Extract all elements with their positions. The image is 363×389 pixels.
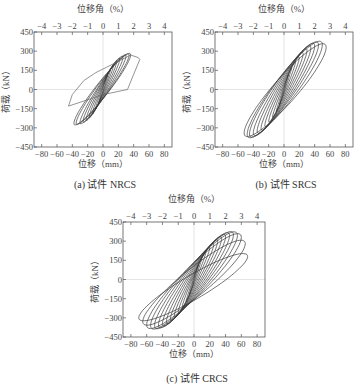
top-x-tick-label: 0	[192, 211, 196, 221]
x-tick-label: −20	[172, 339, 185, 349]
y-tick-label: −300	[104, 313, 122, 323]
y-tick-label: −300	[15, 123, 33, 133]
x-tick-label: −20	[262, 149, 275, 159]
top-axis-title: 位移角（%）	[168, 193, 221, 204]
x-tick-label: 80	[341, 149, 350, 159]
top-x-tick-label: 3	[328, 21, 332, 31]
top-x-tick-label: −2	[68, 21, 77, 31]
top-axis-title: 位移角（%）	[77, 3, 130, 14]
y-tick-label: 150	[201, 65, 214, 75]
top-x-tick-label: 1	[208, 211, 212, 221]
caption-b: (b) 试件 SRCS	[221, 176, 351, 191]
y-tick-label: −300	[196, 123, 214, 133]
y-tick-label: −150	[104, 294, 122, 304]
x-tick-label: 20	[114, 149, 123, 159]
top-x-tick-label: 2	[223, 211, 227, 221]
x-tick-label: 60	[145, 149, 154, 159]
top-x-tick-label: −1	[264, 21, 273, 31]
x-tick-label: −40	[156, 339, 169, 349]
top-x-tick-label: −3	[142, 211, 151, 221]
y-tick-label: −450	[104, 332, 122, 342]
top-x-tick-label: 3	[147, 21, 151, 31]
x-tick-label: 60	[237, 339, 246, 349]
y-tick-label: 450	[20, 27, 33, 37]
y-tick-label: 150	[20, 65, 33, 75]
top-x-tick-label: −4	[126, 211, 136, 221]
top-axis-title: 位移角（%）	[258, 3, 311, 14]
hysteresis-plot-c: −80−60−40−20020406080−4−3−2−101234−450−3…	[89, 190, 274, 368]
y-tick-label: 0	[210, 85, 214, 95]
x-tick-label: −40	[66, 149, 79, 159]
y-tick-label: −150	[15, 104, 33, 114]
x-tick-label: −80	[124, 339, 137, 349]
hysteresis-plot-a: −80−60−40−20020406080−4−3−2−101234−450−3…	[0, 0, 182, 175]
top-x-tick-label: 2	[313, 21, 317, 31]
top-x-tick-label: 4	[255, 211, 260, 221]
top-x-tick-label: −3	[52, 21, 61, 31]
x-tick-label: 40	[310, 149, 319, 159]
x-tick-label: 0	[101, 149, 105, 159]
x-tick-label: 80	[253, 339, 262, 349]
x-tick-label: 40	[221, 339, 230, 349]
top-x-tick-label: 2	[132, 21, 136, 31]
y-tick-label: −450	[15, 142, 33, 152]
x-axis-title: 位移（mm）	[259, 158, 309, 169]
caption-c: (c) 试件 CRCS	[132, 370, 262, 385]
top-x-tick-label: 3	[239, 211, 243, 221]
y-tick-label: 450	[109, 217, 122, 227]
y-tick-label: 300	[109, 236, 122, 246]
x-tick-label: 0	[192, 339, 196, 349]
top-x-tick-label: 4	[343, 21, 348, 31]
x-tick-label: −40	[247, 149, 260, 159]
top-x-tick-label: 0	[282, 21, 286, 31]
y-tick-label: 300	[201, 46, 214, 56]
top-x-tick-label: −4	[37, 21, 47, 31]
x-tick-label: −60	[50, 149, 63, 159]
y-tick-label: 0	[118, 275, 122, 285]
y-tick-label: 0	[29, 85, 33, 95]
x-tick-label: 20	[295, 149, 304, 159]
y-axis-title: 荷载（kN）	[0, 66, 11, 113]
x-tick-label: −80	[216, 149, 229, 159]
x-tick-label: 80	[160, 149, 169, 159]
top-x-tick-label: −4	[218, 21, 228, 31]
top-x-tick-label: −1	[174, 211, 183, 221]
x-tick-label: −60	[140, 339, 153, 349]
hysteresis-curves	[139, 232, 248, 330]
y-axis-title: 荷载（kN）	[181, 66, 192, 113]
x-tick-label: −20	[81, 149, 94, 159]
chart-panel-a: −80−60−40−20020406080−4−3−2−101234−450−3…	[0, 0, 182, 195]
chart-panel-c: −80−60−40−20020406080−4−3−2−101234−450−3…	[89, 190, 274, 389]
y-tick-label: 300	[20, 46, 33, 56]
top-x-tick-label: 4	[162, 21, 167, 31]
top-x-tick-label: −2	[249, 21, 258, 31]
y-tick-label: 150	[109, 255, 122, 265]
x-axis-title: 位移（mm）	[169, 348, 219, 359]
x-tick-label: 40	[129, 149, 138, 159]
y-tick-label: −150	[196, 104, 214, 114]
top-x-tick-label: −3	[233, 21, 242, 31]
y-axis-title: 荷载（kN）	[89, 256, 100, 303]
x-axis-title: 位移（mm）	[78, 158, 128, 169]
top-x-tick-label: 1	[297, 21, 301, 31]
hysteresis-plot-b: −80−60−40−20020406080−4−3−2−101234−450−3…	[181, 0, 363, 175]
x-tick-label: 60	[326, 149, 335, 159]
x-tick-label: −60	[231, 149, 244, 159]
top-x-tick-label: 1	[116, 21, 120, 31]
chart-panel-b: −80−60−40−20020406080−4−3−2−101234−450−3…	[181, 0, 363, 195]
x-tick-label: 20	[206, 339, 215, 349]
top-x-tick-label: 0	[101, 21, 105, 31]
top-x-tick-label: −2	[158, 211, 167, 221]
caption-a: (a) 试件 NRCS	[40, 176, 170, 191]
y-tick-label: 450	[201, 27, 214, 37]
x-tick-label: 0	[282, 149, 286, 159]
top-x-tick-label: −1	[83, 21, 92, 31]
y-tick-label: −450	[196, 142, 214, 152]
x-tick-label: −80	[35, 149, 48, 159]
